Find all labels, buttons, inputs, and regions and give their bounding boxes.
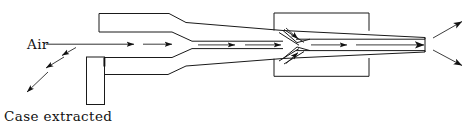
air-label: Air — [26, 36, 49, 52]
case-extracted-label: Case extracted — [4, 108, 112, 124]
diagram-root: Air Case extracted — [0, 0, 476, 127]
lower-receiver-outline — [104, 49, 425, 75]
upper-receiver-outline — [99, 14, 425, 42]
case-ejection-arrows — [27, 48, 76, 93]
airflow-cross-section-figure: Air Case extracted — [0, 0, 476, 127]
case-block — [87, 57, 105, 105]
muzzle-exit-arrows — [433, 22, 462, 66]
